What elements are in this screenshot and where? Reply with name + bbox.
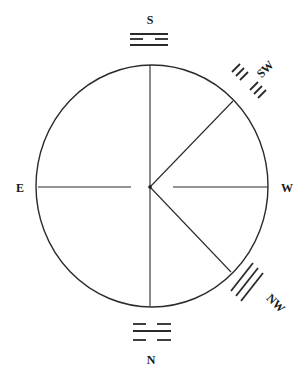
trigram-south xyxy=(130,34,168,45)
label-west: W xyxy=(281,181,293,195)
label-southwest: SW xyxy=(254,58,277,81)
label-east: E xyxy=(16,181,24,195)
radius-northwest xyxy=(150,187,231,272)
bagua-compass-diagram: S SW W NW N E xyxy=(0,0,305,373)
trigram-north xyxy=(133,324,171,340)
radius-southwest xyxy=(150,101,233,187)
label-northwest: NW xyxy=(264,291,289,316)
center-point xyxy=(148,185,152,189)
label-south: S xyxy=(147,13,154,27)
label-north: N xyxy=(147,353,156,367)
